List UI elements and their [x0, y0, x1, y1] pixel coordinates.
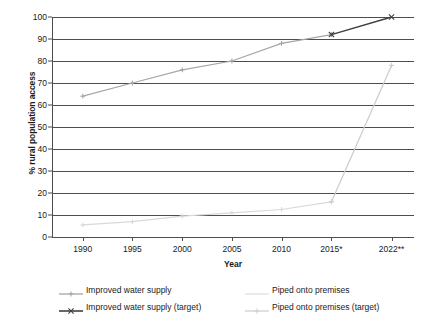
x-tick-label: 2022**: [379, 244, 405, 254]
data-point-marker: [69, 291, 74, 296]
legend-row: Improved water supplyPiped onto premises: [58, 281, 418, 298]
y-tick-label: 90: [38, 34, 47, 44]
data-point-marker: [80, 223, 85, 228]
x-axis-title: Year: [52, 259, 414, 269]
data-point-marker: [279, 41, 284, 46]
legend-swatch-icon: [58, 285, 84, 295]
series-3: [329, 63, 394, 204]
x-tick-mark: [282, 237, 283, 241]
y-tick-label: 40: [38, 144, 47, 154]
data-point-marker: [279, 207, 284, 212]
x-tick-mark: [232, 237, 233, 241]
data-point-marker: [230, 59, 235, 64]
x-tick-label: 2010: [272, 244, 291, 254]
x-tick-mark: [83, 237, 84, 241]
series-line: [331, 65, 391, 201]
series-2: [329, 14, 394, 37]
legend-label: Piped onto premises (target): [272, 302, 379, 312]
legend-row: Improved water supply (target)Piped onto…: [58, 298, 418, 315]
data-point-marker: [80, 94, 85, 99]
x-tick-label: 1990: [73, 244, 92, 254]
x-tick-label: 2000: [173, 244, 192, 254]
plot-area: 0102030405060708090100 19901995200020052…: [52, 17, 414, 237]
data-point-marker: [130, 81, 135, 86]
x-tick-label: 2005: [222, 244, 241, 254]
series-1: [80, 199, 333, 227]
legend-label: Piped onto premises: [272, 285, 350, 295]
legend-label: Improved water supply: [86, 285, 172, 295]
y-tick-label: 0: [42, 232, 47, 242]
y-tick-label: 50: [38, 122, 47, 132]
legend-entry[interactable]: Piped onto premises: [244, 285, 350, 295]
data-point-marker: [130, 219, 135, 224]
series-line: [83, 202, 332, 225]
series-line: [83, 35, 332, 97]
data-point-marker: [255, 308, 260, 313]
series-0: [80, 32, 333, 98]
y-tick-label: 60: [38, 100, 47, 110]
data-point-marker: [389, 63, 394, 68]
y-tick-label: 20: [38, 188, 47, 198]
legend-entry[interactable]: Improved water supply: [58, 285, 244, 295]
legend-swatch-icon: [244, 285, 270, 295]
y-tick-label: 70: [38, 78, 47, 88]
x-tick-mark: [331, 237, 332, 241]
x-tick-mark: [182, 237, 183, 241]
line-chart: % rural population access 01020304050607…: [0, 0, 430, 325]
series-line: [331, 17, 391, 35]
data-point-marker: [230, 210, 235, 215]
x-tick-mark: [392, 237, 393, 241]
y-axis-title: % rural population access: [27, 28, 37, 218]
x-tick-label: 2015*: [320, 244, 342, 254]
legend-label: Improved water supply (target): [86, 302, 201, 312]
x-tick-label: 1995: [123, 244, 142, 254]
data-point-marker: [180, 67, 185, 72]
y-tick-label: 30: [38, 166, 47, 176]
x-tick-mark: [132, 237, 133, 241]
y-tick-label: 100: [33, 12, 47, 22]
legend-entry[interactable]: Improved water supply (target): [58, 302, 244, 312]
data-point-marker: [180, 214, 185, 219]
legend-swatch-icon: [58, 302, 84, 312]
y-tick-label: 10: [38, 210, 47, 220]
data-point-marker: [329, 199, 334, 204]
legend-swatch-icon: [244, 302, 270, 312]
chart-legend: Improved water supplyPiped onto premises…: [58, 281, 418, 315]
series-layer: [52, 17, 414, 237]
legend-entry[interactable]: Piped onto premises (target): [244, 302, 379, 312]
y-tick-label: 80: [38, 56, 47, 66]
